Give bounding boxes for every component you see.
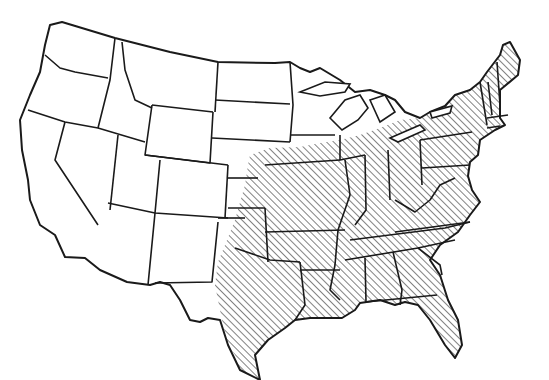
us-map [0, 0, 549, 380]
